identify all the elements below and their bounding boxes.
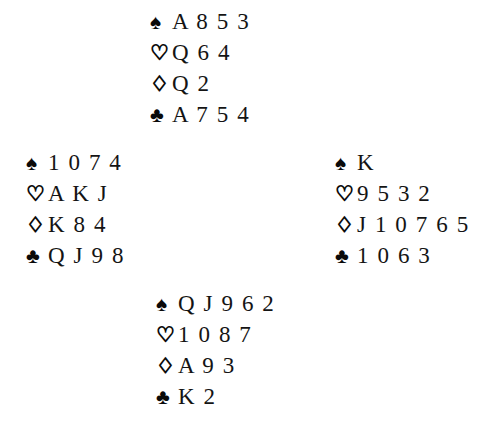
spade-icon: ♠ [335,153,356,174]
hand-north-clubs-line: ♣ A 7 5 4 [150,99,250,130]
hand-north-diamonds-ranks: Q 2 [172,68,211,99]
hand-south-clubs-line: ♣ K 2 [156,381,275,412]
hand-north-hearts-line: ♡ Q 6 4 [150,37,250,68]
hand-east-clubs-line: ♣ 1 0 6 3 [335,240,470,271]
diamond-icon: ♢ [26,215,47,236]
hand-west-spades-ranks: 1 0 7 4 [48,147,122,178]
hand-west-diamonds-line: ♢ K 8 4 [26,209,125,240]
heart-icon: ♡ [156,325,177,346]
hand-east-spades-ranks: K [357,147,375,178]
spade-icon: ♠ [156,294,177,315]
hand-south-hearts-line: ♡ 1 0 8 7 [156,319,275,350]
hand-north-diamonds-line: ♢ Q 2 [150,68,250,99]
diamond-icon: ♢ [150,74,171,95]
hand-east-spades-line: ♠ K [335,147,470,178]
hand-east-hearts-ranks: 9 5 3 2 [357,178,431,209]
hand-north: ♠ A 8 5 3 ♡ Q 6 4 ♢ Q 2 ♣ A 7 5 4 [150,6,250,130]
diamond-icon: ♢ [156,356,177,377]
diamond-icon: ♢ [335,215,356,236]
hand-west-clubs-line: ♣ Q J 9 8 [26,240,125,271]
hand-west-spades-line: ♠ 1 0 7 4 [26,147,125,178]
hand-north-spades-ranks: A 8 5 3 [172,6,250,37]
club-icon: ♣ [26,246,47,267]
hand-west-clubs-ranks: Q J 9 8 [48,240,125,271]
hand-south-diamonds-line: ♢ A 9 3 [156,350,275,381]
hand-east-hearts-line: ♡ 9 5 3 2 [335,178,470,209]
spade-icon: ♠ [26,153,47,174]
bridge-deal-diagram: ♠ A 8 5 3 ♡ Q 6 4 ♢ Q 2 ♣ A 7 5 4 ♠ 1 0 … [0,0,483,433]
hand-west-hearts-line: ♡ A K J [26,178,125,209]
club-icon: ♣ [150,105,171,126]
hand-south-hearts-ranks: 1 0 8 7 [178,319,252,350]
hand-west: ♠ 1 0 7 4 ♡ A K J ♢ K 8 4 ♣ Q J 9 8 [26,147,125,271]
hand-south-clubs-ranks: K 2 [178,381,217,412]
hand-east-clubs-ranks: 1 0 6 3 [357,240,431,271]
heart-icon: ♡ [150,43,171,64]
hand-east-diamonds-line: ♢ J 1 0 7 6 5 [335,209,470,240]
hand-north-hearts-ranks: Q 6 4 [172,37,231,68]
hand-north-spades-line: ♠ A 8 5 3 [150,6,250,37]
hand-south: ♠ Q J 9 6 2 ♡ 1 0 8 7 ♢ A 9 3 ♣ K 2 [156,288,275,412]
spade-icon: ♠ [150,12,171,33]
club-icon: ♣ [335,246,356,267]
heart-icon: ♡ [335,184,356,205]
hand-north-clubs-ranks: A 7 5 4 [172,99,250,130]
hand-south-spades-ranks: Q J 9 6 2 [178,288,275,319]
club-icon: ♣ [156,387,177,408]
hand-west-hearts-ranks: A K J [48,178,108,209]
hand-south-spades-line: ♠ Q J 9 6 2 [156,288,275,319]
hand-south-diamonds-ranks: A 9 3 [178,350,236,381]
hand-east-diamonds-ranks: J 1 0 7 6 5 [357,209,470,240]
hand-east: ♠ K ♡ 9 5 3 2 ♢ J 1 0 7 6 5 ♣ 1 0 6 3 [335,147,470,271]
hand-west-diamonds-ranks: K 8 4 [48,209,107,240]
heart-icon: ♡ [26,184,47,205]
